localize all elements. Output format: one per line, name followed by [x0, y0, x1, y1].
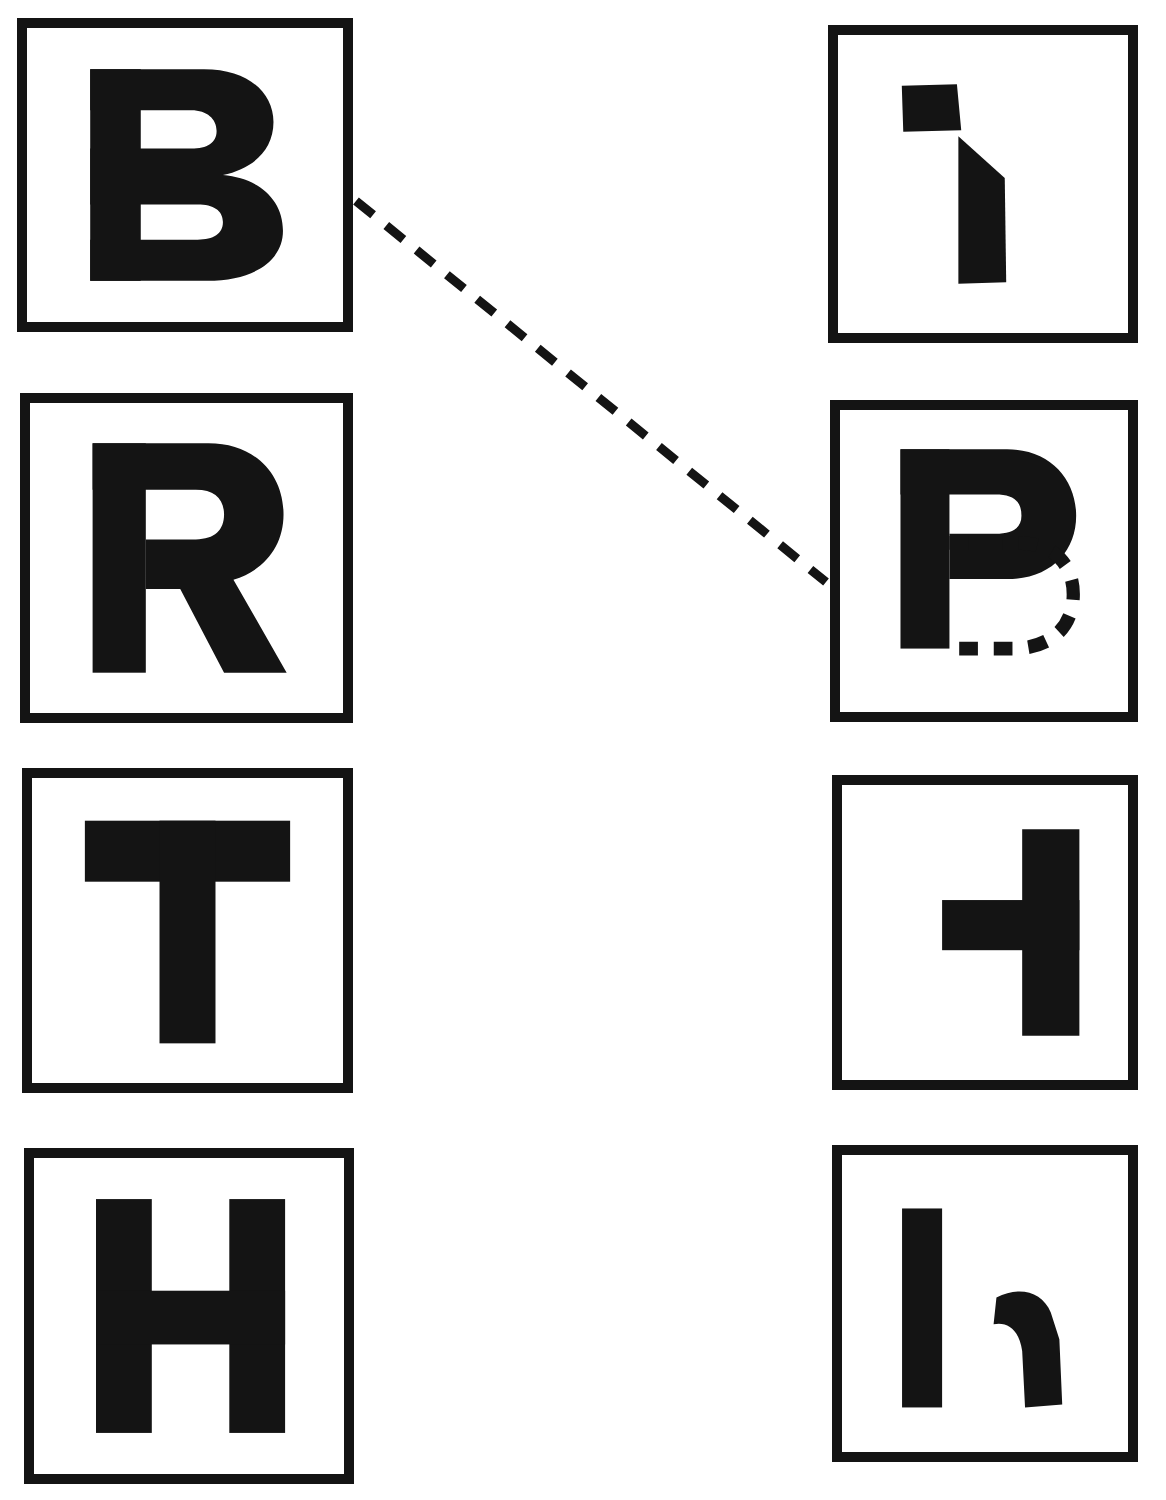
letter-box-left-1[interactable]: [17, 18, 353, 332]
letter-box-right-1[interactable]: [828, 25, 1138, 343]
letter-glyph-fragment-h: [842, 1155, 1128, 1452]
letter-box-left-3[interactable]: [22, 768, 353, 1093]
letter-box-right-3[interactable]: [832, 775, 1138, 1090]
letter-box-right-4[interactable]: [832, 1145, 1138, 1462]
letter-glyph-rotated-t: [842, 785, 1128, 1080]
letter-glyph-t: [32, 778, 343, 1083]
letter-box-left-2[interactable]: [20, 393, 353, 723]
letter-glyph-dashed-b: [840, 410, 1128, 712]
letter-box-right-2[interactable]: [830, 400, 1138, 722]
letter-glyph-fragment-i: [838, 35, 1128, 333]
letter-glyph-r: [30, 403, 343, 713]
figure-title: Letter recognition matching figure: [0, 0, 1, 1]
letter-matching-figure: Letter recognition matching figure: [0, 0, 1166, 1500]
letter-glyph-h: [34, 1158, 344, 1474]
dashed-match-line: [356, 201, 826, 582]
letter-box-left-4[interactable]: [24, 1148, 354, 1484]
letter-glyph-b: [27, 28, 343, 322]
